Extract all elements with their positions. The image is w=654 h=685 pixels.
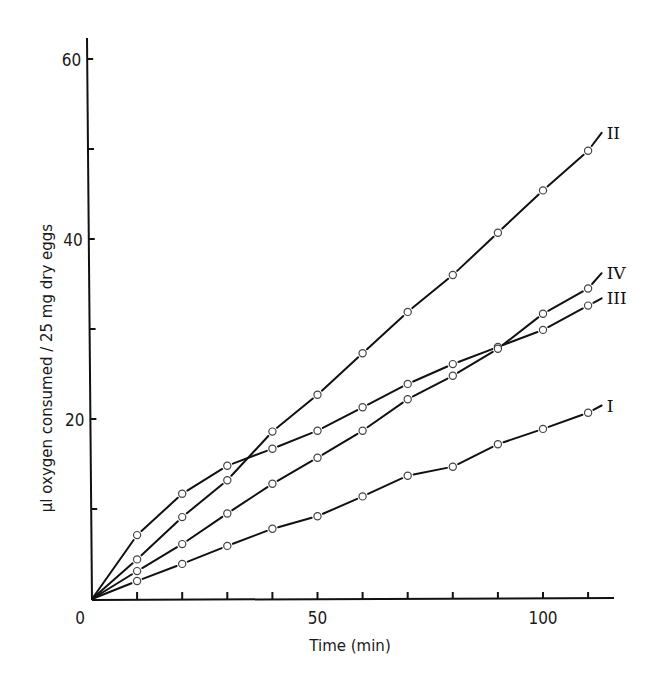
x-axis-title: Time (min): [308, 637, 390, 655]
line-segment: [187, 469, 222, 491]
data-point: [179, 560, 186, 567]
line-segment: [504, 332, 538, 345]
data-point: [134, 568, 141, 575]
data-point: [539, 310, 546, 317]
line-segment: [548, 155, 584, 187]
line-segment: [592, 273, 602, 284]
y-axis-title: µl oxygen consumed / 25 mg dry eggs: [38, 224, 56, 513]
data-point: [359, 427, 366, 434]
series-I: [92, 406, 602, 600]
data-point: [449, 463, 456, 470]
data-point: [449, 361, 456, 368]
data-point: [314, 513, 321, 520]
data-point: [539, 187, 546, 194]
x-tick-label: 100: [528, 608, 557, 628]
data-point: [494, 345, 501, 352]
line-segment: [457, 237, 493, 271]
data-point: [449, 271, 456, 278]
line-segment: [368, 387, 402, 405]
data-point: [134, 556, 141, 563]
data-point: [404, 308, 411, 315]
data-point: [269, 428, 276, 435]
data-point: [585, 409, 592, 416]
line-segment: [278, 433, 312, 447]
line-segment: [187, 517, 222, 541]
data-point: [404, 472, 411, 479]
x-axis: [92, 598, 614, 600]
data-point: [494, 441, 501, 448]
line-segment: [323, 434, 358, 455]
line-segment: [323, 410, 357, 428]
line-segment: [323, 499, 357, 514]
data-point: [359, 493, 366, 500]
y-tick-label: 40: [63, 230, 82, 250]
line-segment: [278, 518, 312, 527]
data-point: [224, 542, 231, 549]
data-point: [314, 427, 321, 434]
series-IV: [92, 273, 602, 599]
line-segment: [278, 461, 313, 481]
line-segment: [504, 431, 538, 442]
line-segment: [233, 531, 267, 544]
data-point: [449, 372, 456, 379]
line-segment: [277, 398, 313, 427]
line-segment: [502, 195, 538, 229]
data-point: [404, 396, 411, 403]
line-segment: [92, 574, 132, 599]
data-point: [224, 510, 231, 517]
line-segment: [413, 367, 447, 382]
data-point: [585, 147, 592, 154]
data-point: [585, 285, 592, 292]
line-segment: [503, 317, 539, 345]
line-segment: [548, 308, 583, 327]
line-segment: [322, 357, 358, 390]
series-label-II: II: [607, 123, 620, 143]
data-point: [494, 229, 501, 236]
data-point: [585, 302, 592, 309]
line-segment: [232, 487, 267, 510]
data-point: [179, 514, 186, 521]
line-segment: [233, 451, 267, 464]
series-label-I: I: [607, 396, 614, 416]
data-point: [539, 425, 546, 432]
series-label-IV: IV: [607, 263, 627, 283]
series-label-III: III: [607, 288, 627, 308]
line-chart: 501002040600 IIIIIIIV Time (min) µl oxyg…: [0, 0, 654, 685]
line-segment: [413, 379, 447, 397]
line-segment: [593, 406, 601, 410]
data-point: [359, 404, 366, 411]
line-segment: [412, 279, 448, 308]
y-tick-label: 20: [65, 410, 84, 430]
series-II: [92, 133, 602, 599]
data-point: [314, 454, 321, 461]
data-point: [224, 462, 231, 469]
line-segment: [368, 478, 402, 494]
line-segment: [188, 548, 222, 562]
data-point: [269, 525, 276, 532]
data-point: [134, 532, 141, 539]
line-segment: [458, 447, 492, 464]
line-segment: [592, 133, 602, 146]
axis-ticks: [87, 59, 588, 599]
data-point: [134, 577, 141, 584]
series-labels: IIIIIIIV: [607, 123, 627, 416]
line-segment: [593, 298, 601, 302]
series-III: [92, 298, 602, 599]
data-point: [179, 490, 186, 497]
data-point: [179, 541, 186, 548]
data-point: [359, 350, 366, 357]
line-segment: [414, 468, 447, 475]
origin-label: 0: [75, 608, 85, 628]
data-point: [539, 326, 546, 333]
data-point: [224, 477, 231, 484]
line-segment: [367, 316, 403, 349]
line-segment: [368, 403, 403, 428]
line-segment: [549, 415, 583, 427]
data-point: [269, 480, 276, 487]
y-axis: [87, 38, 92, 600]
data-point: [269, 445, 276, 452]
y-tick-label: 60: [62, 50, 81, 70]
line-segment: [548, 291, 583, 310]
tick-labels: 501002040600: [62, 50, 558, 628]
line-segment: [231, 436, 268, 476]
